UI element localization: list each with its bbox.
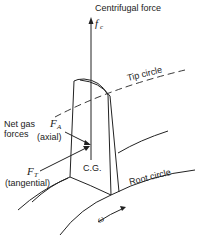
hub-arc-upper — [118, 131, 168, 153]
blade-root — [70, 177, 111, 195]
hub-arc-lower — [60, 195, 111, 235]
cg-label: C.G. — [83, 163, 102, 173]
centrifugal-force-label: Centrifugal force — [95, 3, 161, 13]
turbine-blade-diagram: Centrifugal force f c Tip circle Root ci… — [0, 0, 200, 239]
root-circle-label: Root circle — [128, 167, 172, 187]
arrowhead-icon — [89, 17, 94, 24]
tip-circle — [55, 70, 185, 117]
omega-label: ω — [96, 213, 106, 225]
fa-subscript: A — [56, 123, 62, 131]
ft-description: (tangential) — [5, 178, 50, 188]
ft-symbol: F — [26, 165, 34, 177]
rotation-arrowhead-icon — [120, 206, 126, 211]
fc-subscript: c — [100, 23, 104, 31]
axial-arrowhead-icon — [84, 140, 91, 145]
tip-circle-label: Tip circle — [126, 65, 163, 83]
blade-tip-inner — [80, 80, 110, 96]
fa-symbol: F — [49, 117, 57, 129]
fa-description: (axial) — [37, 132, 62, 142]
blade-trailing-edge-2 — [110, 96, 119, 192]
blade-trailing-edge — [108, 95, 111, 195]
net-gas-label-line1: Net gas — [4, 119, 36, 129]
blade-leading-edge — [70, 81, 74, 177]
tangential-force-arrow — [40, 147, 88, 171]
net-gas-label-line2: forces — [4, 129, 29, 139]
